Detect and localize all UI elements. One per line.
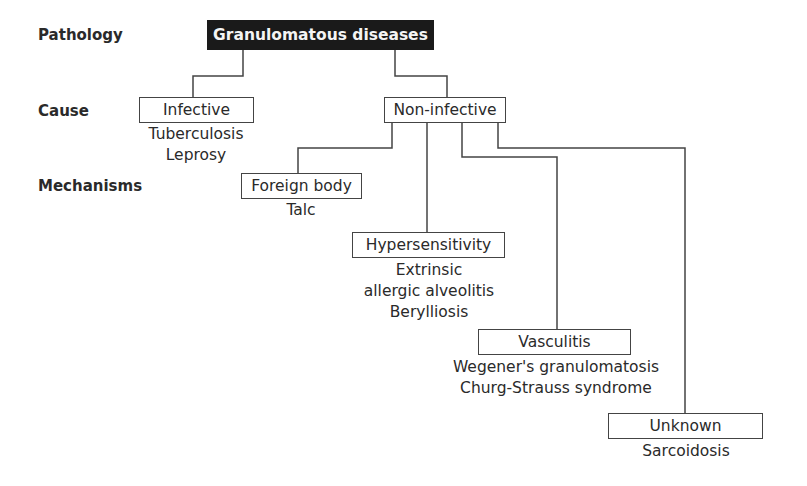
vasculitis-examples: Wegener's granulomatosis Churg-Strauss s… <box>453 357 659 399</box>
example-item: Extrinsic <box>364 260 494 281</box>
foreign-body-examples: Talc <box>286 200 315 221</box>
connector-root-infective <box>193 50 243 97</box>
level-label-cause: Cause <box>38 102 89 120</box>
mechanism-node-label: Hypersensitivity <box>366 236 492 254</box>
mechanism-node-label: Foreign body <box>251 177 352 195</box>
mechanism-node-vasculitis: Vasculitis <box>478 329 631 355</box>
root-node-label: Granulomatous diseases <box>213 26 428 44</box>
cause-node-infective: Infective <box>139 97 254 123</box>
level-label-mechanisms: Mechanisms <box>38 177 142 195</box>
example-item: Berylliosis <box>364 302 494 323</box>
cause-node-label: Non-infective <box>393 101 496 119</box>
unknown-examples: Sarcoidosis <box>642 441 729 462</box>
mechanism-node-label: Unknown <box>650 417 722 435</box>
mechanism-node-foreign-body: Foreign body <box>241 173 362 199</box>
connector-root-noninfective <box>395 50 447 97</box>
example-item: allergic alveolitis <box>364 281 494 302</box>
infective-examples: Tuberculosis Leprosy <box>149 124 244 166</box>
example-item: Sarcoidosis <box>642 441 729 462</box>
mechanism-node-unknown: Unknown <box>608 413 763 439</box>
level-label-pathology: Pathology <box>38 26 123 44</box>
example-item: Churg-Strauss syndrome <box>453 378 659 399</box>
cause-node-label: Infective <box>163 101 230 119</box>
mechanism-node-hypersensitivity: Hypersensitivity <box>352 232 505 258</box>
connector-noninfective-foreignbody <box>298 122 392 173</box>
hypersensitivity-examples: Extrinsic allergic alveolitis Berylliosi… <box>364 260 494 323</box>
cause-node-noninfective: Non-infective <box>384 97 506 123</box>
root-node: Granulomatous diseases <box>207 20 434 50</box>
example-item: Tuberculosis <box>149 124 244 145</box>
mechanism-node-label: Vasculitis <box>518 333 590 351</box>
example-item: Wegener's granulomatosis <box>453 357 659 378</box>
example-item: Leprosy <box>149 145 244 166</box>
example-item: Talc <box>286 200 315 221</box>
